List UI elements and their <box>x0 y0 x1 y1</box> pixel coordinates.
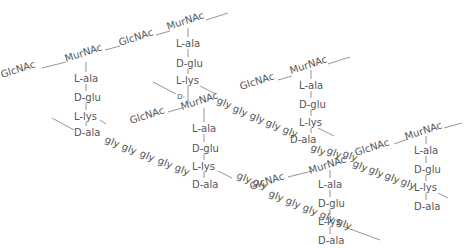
glycine-label: gly <box>215 95 233 111</box>
amino-acid-label: L-ala <box>192 123 216 134</box>
pentaglycine-bridge-4: gly gly gly gly gly <box>267 188 353 232</box>
glycine-label: gly <box>248 110 266 126</box>
glycine-label: gly <box>284 195 302 211</box>
amino-acid-label: L-lys <box>414 182 437 193</box>
amino-acid-label: L-lys <box>299 117 322 128</box>
glcnac-label: GlcNAc <box>353 136 390 157</box>
amino-acid-label: D-ala <box>192 179 218 190</box>
glcnac-label: GlcNAc <box>238 70 275 91</box>
amino-acid-label: D-glu <box>299 99 326 110</box>
glcnac-label: GlcNAc <box>117 26 154 47</box>
glcnac-label: GlcNAc <box>128 104 165 125</box>
stem-peptide-a: L-ala D-glu L-lys D-ala <box>74 72 102 138</box>
glycan-backbones <box>42 13 462 177</box>
glycine-label: gly <box>367 164 385 180</box>
murnac-label: MurNAc <box>165 9 205 31</box>
amino-acid-label: D- <box>177 93 185 101</box>
glycine-label: gly <box>156 155 174 171</box>
glycine-label: gly <box>383 170 401 186</box>
amino-acid-label: D-glu <box>74 92 101 103</box>
amino-acid-label: D-glu <box>414 164 441 175</box>
glycine-label: gly <box>231 103 249 119</box>
glycosidic-bond <box>105 46 120 50</box>
amino-acid-label: L-ala <box>318 179 342 190</box>
pentaglycine-bridge-2: gly gly gly gly gly <box>215 95 299 140</box>
amino-acid-label: L-ala <box>176 38 200 49</box>
glycine-label: gly <box>103 134 121 150</box>
pentaglycine-bridge-1: gly gly gly gly gly <box>103 134 191 178</box>
diagram-svg: GlcNAc MurNAc GlcNAc MurNAc GlcNAc MurNA… <box>0 0 471 248</box>
stem-lines <box>86 28 426 240</box>
amino-acid-label: L-ala <box>414 145 438 156</box>
amino-acid-label: L-ala <box>299 80 323 91</box>
glycine-label: gly <box>351 158 369 174</box>
lys-to-gly-bond <box>100 120 106 124</box>
glycine-label: gly <box>267 188 285 204</box>
amino-acid-label: L-lys <box>176 75 199 86</box>
glycosidic-bond <box>168 108 182 112</box>
amino-acid-label: D-ala <box>318 235 344 246</box>
pentaglycine-bridge-5: gly gly gly gly <box>351 158 417 192</box>
murnac-label: MurNAc <box>288 53 328 75</box>
amino-acid-label: L-lys <box>74 111 97 122</box>
glycine-label: gly <box>264 117 282 133</box>
glcnac-label: GlcNAc <box>0 58 37 79</box>
stem-peptide-b: L-ala D-glu L-lys D- <box>176 37 203 101</box>
glycosidic-bond <box>328 57 350 64</box>
murnac-label: MurNAc <box>403 119 443 141</box>
amino-acid-label: L-lys <box>192 161 215 172</box>
glycosidic-bond <box>42 62 66 68</box>
crosslink-lines <box>52 82 448 240</box>
amino-acid-label: D-ala <box>414 201 440 212</box>
amino-acid-label: D-glu <box>318 198 345 209</box>
stem-peptide-c: L-ala D-glu L-lys D-ala <box>192 122 220 190</box>
glycine-label: gly <box>309 142 327 158</box>
lys-to-gly-bond <box>318 128 334 136</box>
glycosidic-bond <box>206 13 228 20</box>
glycine-label: gly <box>120 141 138 157</box>
glycosidic-bond <box>278 76 292 80</box>
amino-acid-label: D-glu <box>176 58 203 69</box>
glycine-label: gly <box>138 148 156 164</box>
glycosidic-bond <box>444 123 462 128</box>
murnac-label: MurNAc <box>63 41 103 63</box>
stem-peptide-f: L-ala D-glu L-lys D-ala <box>414 144 442 212</box>
amino-acid-label: D-glu <box>192 143 219 154</box>
amino-acid-label: L-ala <box>74 73 98 84</box>
amino-acid-label: D-ala <box>74 127 100 138</box>
glycine-label: gly <box>173 162 191 178</box>
crosslink-continuation <box>52 118 74 130</box>
peptidoglycan-diagram: GlcNAc MurNAc GlcNAc MurNAc GlcNAc MurNA… <box>0 0 471 248</box>
lys-to-gly-bond <box>216 170 232 178</box>
glycine-label: gly <box>301 202 319 218</box>
